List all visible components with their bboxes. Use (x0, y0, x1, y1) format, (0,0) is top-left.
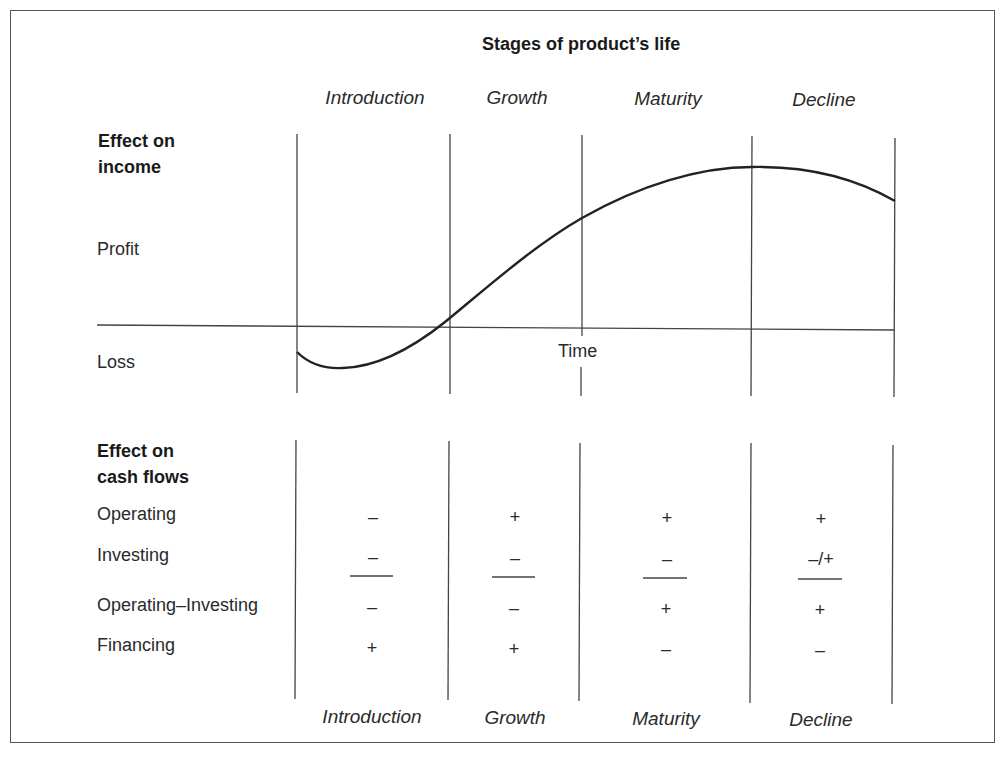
time-axis (97, 325, 895, 330)
product-life-cycle-diagram: Stages of product’s life Introduction Gr… (0, 0, 1007, 758)
cash-divider-3 (579, 443, 580, 701)
cash-divider-4 (750, 443, 751, 703)
income-curve (297, 167, 895, 368)
income-divider-5 (894, 138, 895, 397)
income-divider-4 (751, 136, 752, 396)
cash-divider-1 (295, 440, 296, 699)
cash-divider-2 (448, 441, 449, 700)
diagram-lines (0, 0, 1007, 758)
cash-divider-5 (892, 445, 893, 704)
